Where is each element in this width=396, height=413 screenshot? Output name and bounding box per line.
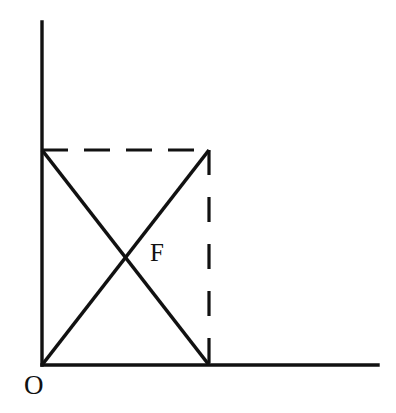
geometry-diagram: [0, 0, 396, 413]
origin-label: O: [24, 372, 44, 399]
figure-canvas: O F: [0, 0, 396, 413]
intersection-point-label: F: [150, 240, 164, 265]
